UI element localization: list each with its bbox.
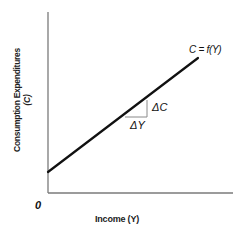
- y-axis-label: Consumption Expenditures (C): [12, 48, 32, 152]
- y-axis-label-line2: (C): [22, 48, 32, 152]
- delta-c-label: ΔC: [152, 101, 167, 113]
- x-axis-label: Income (Y): [95, 214, 139, 224]
- y-axis-label-line1: Consumption Expenditures: [12, 48, 22, 152]
- slope-triangle: [125, 100, 147, 117]
- delta-y-label: ΔY: [130, 119, 145, 131]
- consumption-line: [48, 58, 198, 172]
- curve-label: C = f(Y): [189, 44, 221, 55]
- origin-label: 0: [35, 199, 41, 211]
